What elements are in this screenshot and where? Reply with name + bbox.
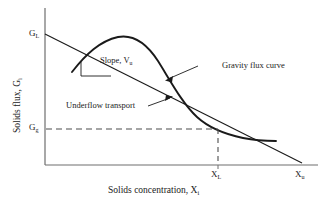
underflow-transport-annotation: Underflow transport (66, 101, 135, 110)
x-tick-xl-sub: L (218, 174, 222, 180)
underflow-transport-line (45, 34, 302, 163)
y-axis-title-sub: i (16, 78, 23, 80)
slope-annotation-text: Slope, V (100, 55, 130, 65)
x-tick-xl-text: X (211, 169, 218, 179)
x-axis-title-text: Solids concentration, X (108, 185, 197, 195)
gravity-curve-arrowhead (165, 76, 173, 83)
x-axis-title-sub: i (197, 189, 199, 196)
x-tick-xu-text: X (295, 169, 302, 179)
y-tick-label-gl: GL (29, 29, 39, 38)
solids-flux-diagram: Solids flux, Gi Solids concentration, Xi… (0, 0, 333, 207)
gravity-flux-curve-annotation: Gravity flux curve (222, 61, 285, 70)
y-tick-label-gg: Gg (29, 123, 39, 132)
plot-canvas (0, 0, 333, 207)
gravity-flux-curve (72, 36, 276, 141)
x-tick-label-xu: Xu (295, 170, 305, 179)
y-tick-gg-sub: g (36, 127, 39, 133)
y-tick-gg-text: G (29, 122, 36, 132)
y-axis-title: Solids flux, Gi (13, 78, 23, 133)
slope-annotation-sub: u (130, 60, 133, 66)
x-tick-label-xl: XL (211, 170, 221, 179)
y-tick-gl-text: G (29, 28, 36, 38)
y-tick-gl-sub: L (36, 33, 40, 39)
y-axis-title-text: Solids flux, G (12, 80, 22, 133)
slope-annotation: Slope, Vu (100, 56, 133, 65)
x-tick-xu-sub: u (302, 174, 305, 180)
x-axis-title: Solids concentration, Xi (108, 186, 199, 196)
